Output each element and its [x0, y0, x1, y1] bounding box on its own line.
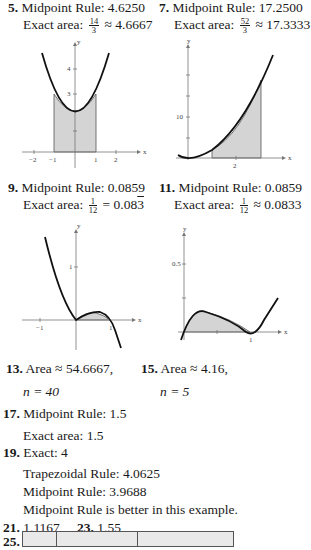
- problem-19-line-4: Midpoint Rule is better in this example.: [23, 502, 238, 518]
- svg-text:2: 2: [233, 162, 237, 170]
- svg-text:−1: −1: [36, 324, 44, 332]
- problem-15-line-1: 15. Area ≈ 4.16,: [141, 361, 228, 377]
- problem-13-line-1: 13. Area ≈ 54.6667,: [6, 361, 113, 377]
- problem-25: 25.: [3, 534, 20, 550]
- fraction: 112: [240, 197, 249, 214]
- svg-text:1: 1: [249, 336, 253, 344]
- svg-text:x: x: [284, 328, 288, 336]
- svg-text:y: y: [187, 37, 191, 45]
- problem-17-line-2: Exact area: 1.5: [23, 428, 104, 444]
- problem-9-line-1: 9. Midpoint Rule: 0.0859: [8, 180, 145, 196]
- svg-text:−2: −2: [29, 156, 37, 164]
- graph-problem-11: 1 0.5 y x: [172, 225, 288, 344]
- svg-text:y: y: [77, 222, 81, 230]
- repeating-digit: 3: [137, 197, 144, 212]
- problem-19-line-3: Midpoint Rule: 3.9688: [23, 484, 146, 500]
- fraction: 112: [89, 197, 98, 214]
- problem-11-line-1: 11. Midpoint Rule: 0.0859: [159, 180, 302, 196]
- problem-11-line-2: Exact area: 112 ≈ 0.0833: [174, 197, 302, 214]
- problem-13-line-2: n = 40: [23, 384, 59, 400]
- svg-text:−1: −1: [49, 156, 57, 164]
- svg-text:x: x: [288, 154, 292, 162]
- problem-19-line-2: Trapezoidal Rule: 4.0625: [23, 466, 160, 482]
- svg-text:y: y: [183, 225, 187, 233]
- graph-problem-9: −1 1 1 y x: [22, 222, 142, 350]
- svg-text:x: x: [143, 148, 147, 156]
- svg-text:3: 3: [67, 90, 71, 98]
- graph-problem-7: 2 10 y x: [176, 37, 292, 170]
- svg-text:1: 1: [69, 263, 73, 271]
- svg-text:2: 2: [114, 156, 118, 164]
- svg-text:y: y: [77, 38, 81, 46]
- problem-19-line-1: 19. Exact: 4: [3, 445, 68, 461]
- problem-15-line-2: n = 5: [160, 384, 189, 400]
- graph-problem-5: −2 −1 1 2 3 4 y x: [22, 38, 147, 168]
- svg-text:4: 4: [67, 65, 71, 73]
- svg-text:1: 1: [94, 156, 98, 164]
- problem-9-line-2: Exact area: 112 = 0.083: [23, 197, 144, 214]
- svg-text:0.5: 0.5: [172, 260, 181, 268]
- problem-17-line-1: 17. Midpoint Rule: 1.5: [3, 406, 126, 422]
- svg-text:10: 10: [176, 113, 184, 121]
- svg-text:x: x: [138, 316, 142, 324]
- svg-text:1: 1: [109, 324, 113, 332]
- problem-25-table: [22, 531, 234, 547]
